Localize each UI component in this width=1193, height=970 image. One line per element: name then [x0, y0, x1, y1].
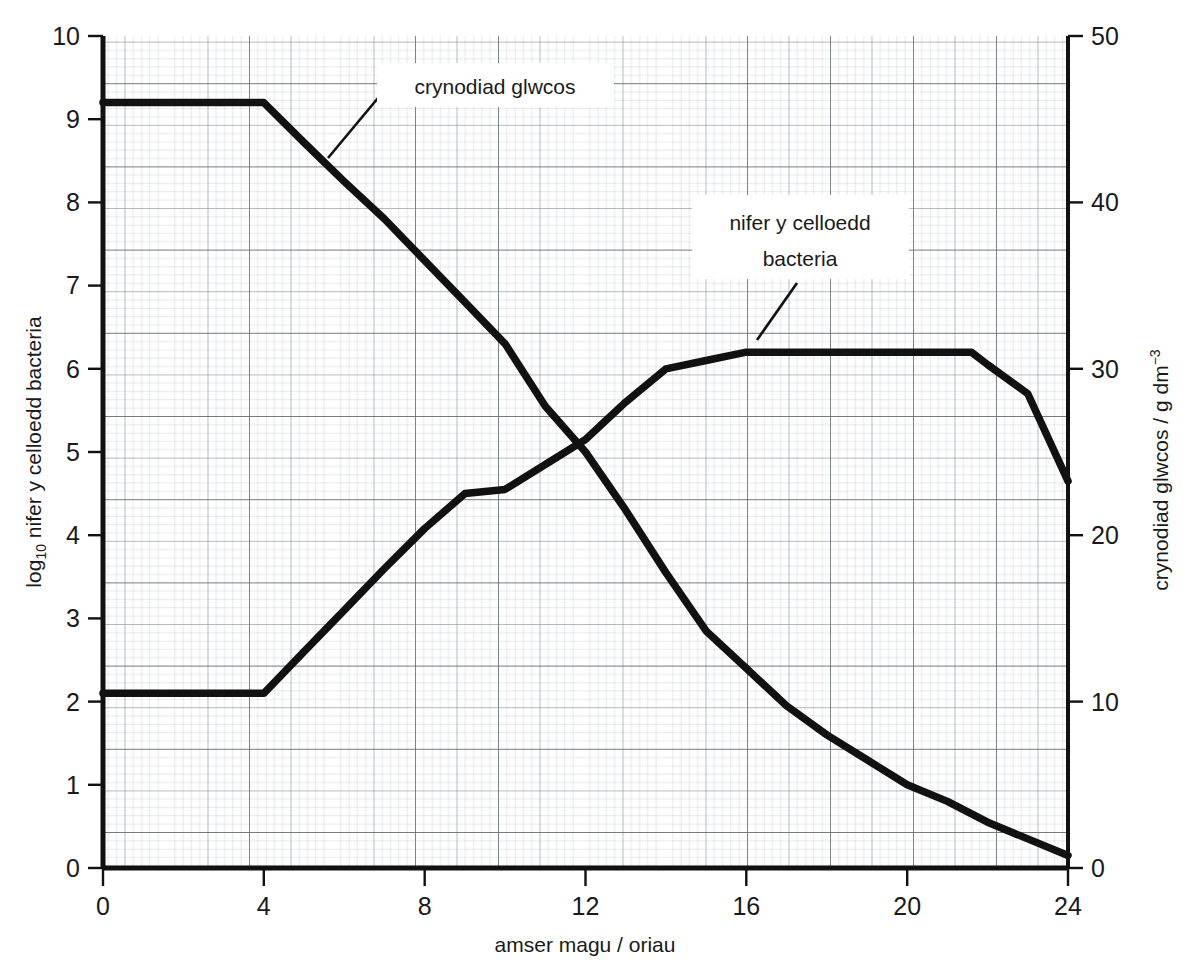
y-tick-label: 0 [66, 854, 80, 882]
graph-figure: 10 9 8 7 6 5 4 3 2 1 0 50 40 30 20 10 0 [0, 0, 1193, 970]
y-tick-label: 4 [66, 521, 80, 549]
y-right-tick-label: 0 [1091, 854, 1105, 882]
x-tick-label: 4 [257, 892, 271, 920]
x-tick-label: 8 [418, 892, 432, 920]
x-tick-label: 12 [572, 892, 600, 920]
y-tick-label: 9 [66, 105, 80, 133]
y-axis-right-title: crynodiad glwcos / g dm−3 [1147, 349, 1172, 590]
y-right-tick-label: 20 [1091, 521, 1119, 549]
x-tick-label: 16 [732, 892, 760, 920]
y-tick-label: 10 [52, 22, 80, 50]
y-tick-label: 3 [66, 604, 80, 632]
y-tick-label: 2 [66, 688, 80, 716]
y-right-tick-label: 50 [1091, 22, 1119, 50]
bacteria-label-text-line1: nifer y celloedd [729, 211, 870, 234]
y-tick-label: 5 [66, 438, 80, 466]
x-tick-label: 0 [96, 892, 110, 920]
y-right-tick-label: 30 [1091, 355, 1119, 383]
y-tick-label: 7 [66, 271, 80, 299]
y-tick-label: 6 [66, 355, 80, 383]
x-tick-label: 20 [893, 892, 921, 920]
y-right-tick-label: 10 [1091, 688, 1119, 716]
x-axis-title: amser magu / oriau [495, 933, 676, 956]
y-tick-label: 1 [66, 771, 80, 799]
svg-text:crynodiad glwcos / g dm−3: crynodiad glwcos / g dm−3 [1147, 349, 1172, 590]
bacteria-label-text-line2: bacteria [763, 247, 838, 270]
glucose-label-text: crynodiad glwcos [414, 75, 575, 98]
y-right-tick-label: 40 [1091, 188, 1119, 216]
y-tick-label: 8 [66, 188, 80, 216]
x-tick-label: 24 [1054, 892, 1082, 920]
